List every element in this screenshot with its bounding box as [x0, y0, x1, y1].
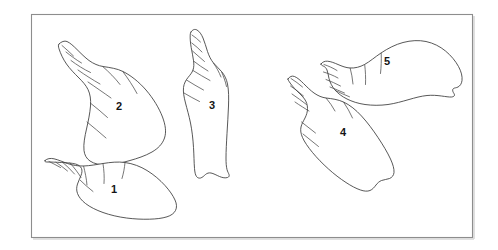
shell-1-label: 1	[111, 183, 117, 195]
shell-4-label: 4	[340, 126, 347, 138]
shell-plate-figure: 2 1 3 4 5	[0, 0, 498, 250]
shell-5-label: 5	[384, 55, 390, 67]
shell-3-label: 3	[209, 99, 215, 111]
shell-2-label: 2	[116, 100, 122, 112]
figure-canvas: 2 1 3 4 5	[0, 0, 498, 250]
